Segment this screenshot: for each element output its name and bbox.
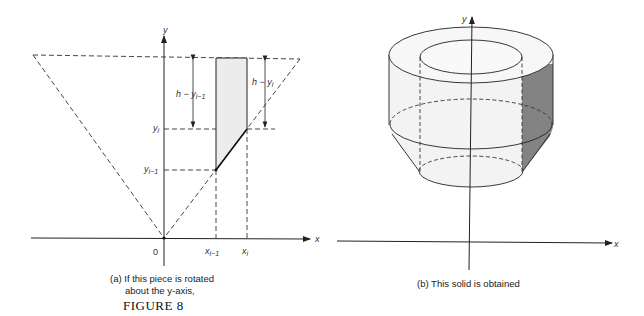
origin-point	[162, 236, 165, 239]
label-y-im1: yi−1	[143, 164, 158, 175]
label-x-i: xi	[241, 246, 249, 257]
caption-a-line2: about the y-axis,	[125, 285, 195, 296]
label-h-minus-y-i: h − yi	[252, 77, 274, 88]
label-x-im1: xi−1	[204, 246, 219, 257]
caption-b: (b) This solid is obtained	[417, 278, 520, 289]
figure-title: FIGURE 8	[123, 298, 184, 313]
y-axis-label-b: y	[461, 14, 467, 24]
label-y-i: yi	[152, 123, 160, 134]
caption-a-line1: (a) If this piece is rotated	[110, 273, 214, 284]
x-axis-a	[31, 238, 310, 239]
x-axis-label-a: x	[314, 234, 320, 244]
y-axis-label-a: y	[162, 25, 168, 35]
figure-canvas: y x 0 h − yi−1 h − yi yi yi−1 xi−1 xi (a…	[0, 0, 644, 316]
panel-a: y x 0 h − yi−1 h − yi yi yi−1 xi−1 xi (a…	[31, 25, 320, 313]
origin-label: 0	[153, 247, 158, 257]
panel-b: y x (b) This solid is obtained	[337, 14, 619, 289]
rotated-piece	[216, 58, 247, 170]
x-axis-label-b: x	[613, 239, 619, 249]
piece-vertex	[215, 169, 218, 172]
label-h-minus-y-im1: h − yi−1	[176, 89, 205, 100]
shaded-cross-section	[522, 64, 553, 172]
x-axis-b	[337, 241, 612, 243]
